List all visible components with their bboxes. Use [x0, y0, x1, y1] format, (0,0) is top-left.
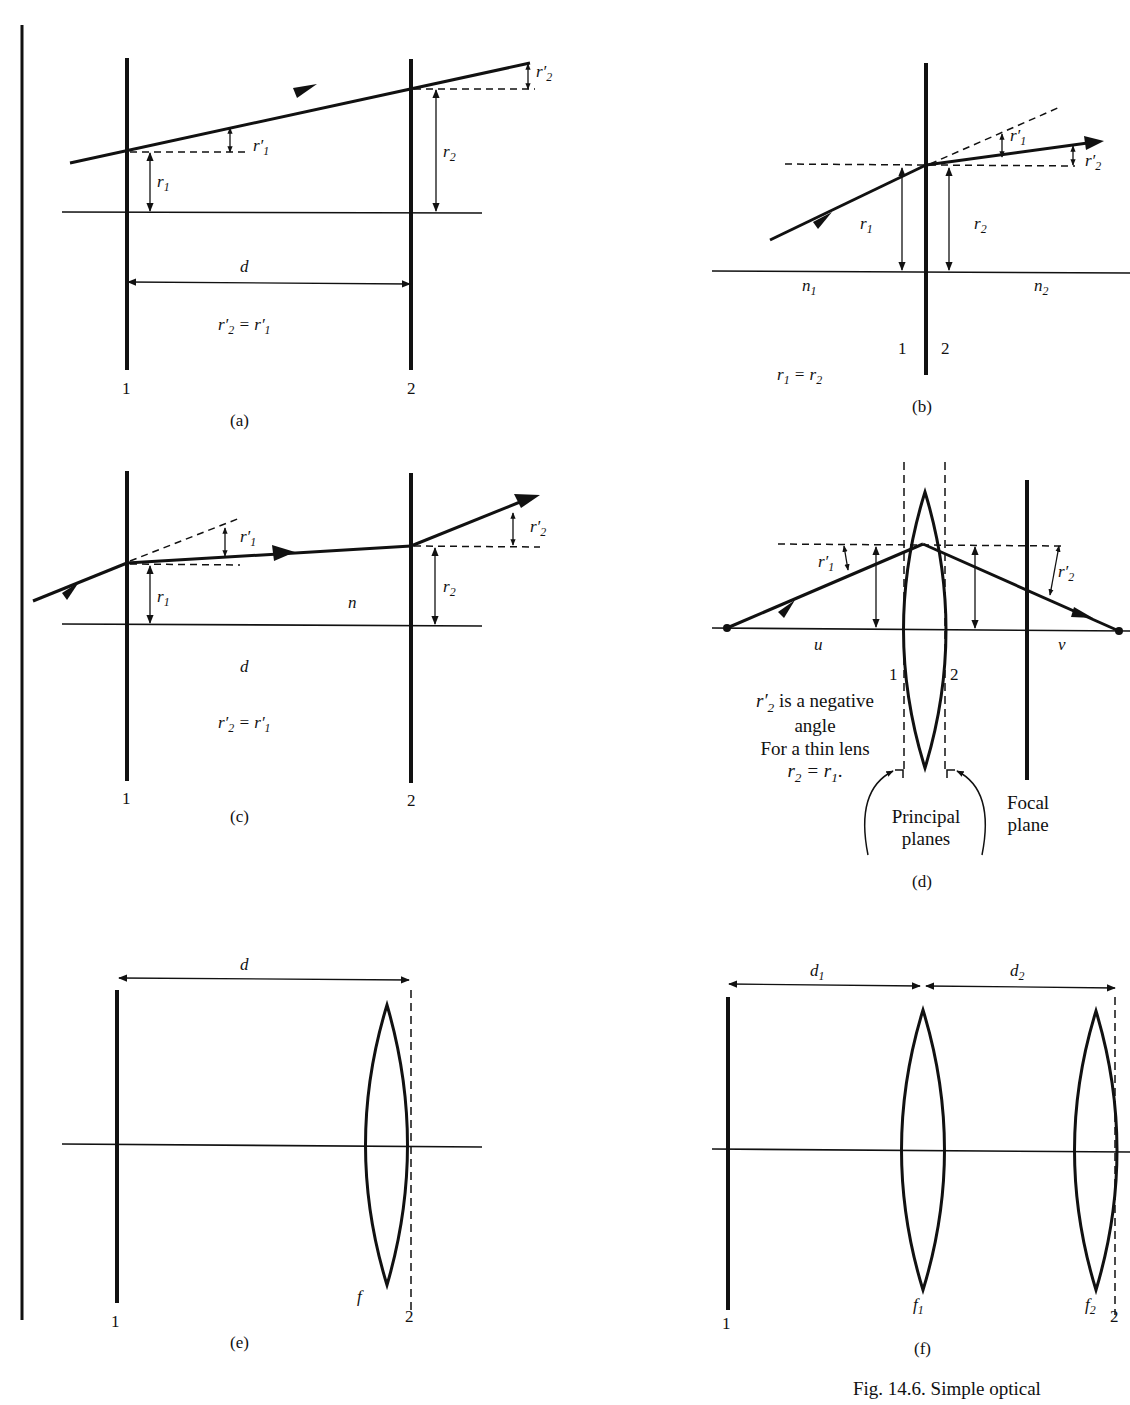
- distance-label: d: [240, 658, 249, 675]
- lens-f2: [1075, 1011, 1118, 1290]
- plane-1-label: 1: [122, 790, 131, 807]
- plane-1-label: 1: [898, 340, 907, 357]
- f1-label: f1: [913, 1296, 924, 1317]
- r2-prime-label: r′2: [1085, 152, 1101, 173]
- panel-label: (c): [230, 808, 249, 825]
- plane-2-label: 2: [941, 340, 950, 357]
- n2-label: n2: [1034, 277, 1048, 298]
- r2-prime-label: r′2: [530, 518, 546, 539]
- thin-lens-note: r′2 is a negative angle For a thin lens …: [740, 690, 890, 786]
- n1-label: n1: [802, 277, 816, 298]
- d1-label: d1: [810, 962, 824, 983]
- r1-prime-label: r′1: [253, 137, 269, 158]
- optical-axis: [712, 271, 1130, 273]
- optical-axis: [62, 212, 482, 213]
- panel-label: (a): [230, 412, 249, 429]
- panel-a-drawing: [62, 58, 535, 370]
- panel-e-drawing: [62, 978, 482, 1310]
- panel-b-drawing: [712, 63, 1130, 375]
- r1-label: r1: [157, 588, 170, 609]
- equation: r1 = r2: [777, 366, 822, 387]
- panel-label: (f): [914, 1340, 931, 1357]
- focal-length-label: f: [357, 1288, 362, 1305]
- panel-label: (b): [912, 398, 932, 415]
- object-distance-label: u: [814, 636, 823, 653]
- r1-label: r1: [157, 173, 170, 194]
- panel-d-drawing: [712, 462, 1130, 855]
- panel-label: (d): [912, 873, 932, 890]
- optics-figure-drawing: [0, 0, 1130, 1405]
- plane-1-label: 1: [722, 1315, 731, 1332]
- r1-prime-label: r′1: [1010, 127, 1026, 148]
- ray-arrowhead: [293, 84, 317, 98]
- panel-f-drawing: [712, 984, 1130, 1315]
- refractive-index-label: n: [348, 594, 357, 611]
- plane-1-label: 1: [122, 380, 131, 397]
- r2-label: r2: [443, 578, 456, 599]
- r2-prime-label: r′2: [1058, 563, 1074, 584]
- r1-label: r1: [860, 215, 873, 236]
- focal-plane-label: Focal plane: [1000, 792, 1056, 837]
- plane-2-label: 2: [1110, 1308, 1119, 1325]
- distance-label: d: [240, 956, 249, 973]
- plane-2-label: 2: [405, 1308, 414, 1325]
- plane-2-label: 2: [950, 666, 959, 683]
- figure-caption: Fig. 14.6. Simple optical: [853, 1378, 1041, 1400]
- plane-1-label: 1: [111, 1313, 120, 1330]
- r2-label: r2: [974, 215, 987, 236]
- d2-label: d2: [1010, 962, 1024, 983]
- panel-c-drawing: [33, 471, 540, 783]
- distance-label: d: [240, 258, 249, 275]
- equation: r′2 = r′1: [218, 316, 271, 337]
- r1-prime-label: r′1: [818, 553, 834, 574]
- r2-label: r2: [443, 143, 456, 164]
- lens-f: [366, 1005, 408, 1285]
- image-distance-label: v: [1058, 636, 1066, 653]
- ray: [70, 63, 530, 163]
- plane-2-label: 2: [407, 380, 416, 397]
- plane-2-label: 2: [407, 792, 416, 809]
- plane-1-label: 1: [889, 666, 898, 683]
- principal-planes-label: Principal planes: [874, 806, 978, 851]
- r2-prime-label: r′2: [536, 63, 552, 84]
- f2-label: f2: [1085, 1296, 1096, 1317]
- panel-label: (e): [230, 1334, 249, 1351]
- r1-prime-label: r′1: [240, 528, 256, 549]
- equation: r′2 = r′1: [218, 714, 271, 735]
